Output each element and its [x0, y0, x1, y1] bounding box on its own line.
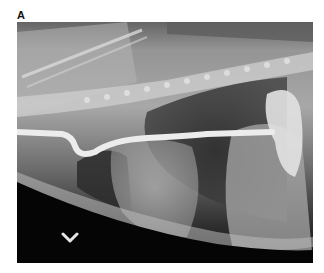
radiograph-image — [17, 22, 313, 263]
chevron-down-icon — [61, 232, 79, 244]
panel-label: A — [17, 10, 25, 21]
